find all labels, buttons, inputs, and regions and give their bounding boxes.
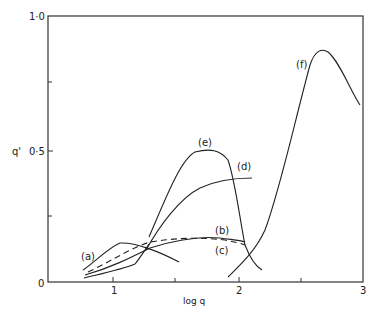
x-tick-label-1: 1 [111, 285, 117, 296]
x-axis-label: log q [183, 296, 205, 306]
label-d: (d) [237, 161, 251, 172]
x-tick-label-2: 2 [236, 285, 242, 296]
plot-frame [48, 16, 363, 282]
label-c: (c) [215, 245, 228, 256]
chart: 1·0 0·5 0 q' 1 2 3 log q (a) (b) (c) (d)… [0, 0, 374, 315]
y-tick-label-top: 1·0 [29, 11, 45, 22]
curve-d [146, 178, 252, 250]
label-e: (e) [198, 137, 212, 148]
label-b: (b) [215, 225, 229, 236]
label-f: (f) [296, 59, 307, 70]
y-axis-label: q' [12, 146, 21, 157]
y-tick-label-mid: 0·5 [29, 146, 45, 157]
x-tick-label-3: 3 [360, 285, 366, 296]
label-a: (a) [81, 251, 95, 262]
y-tick-label-bottom: 0 [38, 278, 44, 289]
curve-b [85, 237, 245, 275]
